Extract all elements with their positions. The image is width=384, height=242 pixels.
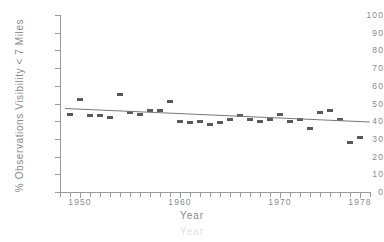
y-axis-line — [60, 15, 61, 193]
data-point — [307, 127, 313, 130]
data-point — [247, 118, 253, 121]
data-point — [257, 120, 263, 123]
data-point — [107, 116, 113, 119]
x-tick-minor — [130, 193, 131, 197]
y-tick-label: 70 — [332, 64, 384, 72]
y-tick-label: 80 — [332, 46, 384, 54]
x-tick-label: 1978 — [340, 197, 380, 207]
y-tick-label: 20 — [332, 153, 384, 161]
x-tick-minor — [220, 193, 221, 197]
x-tick-minor — [250, 193, 251, 197]
data-point — [67, 113, 73, 116]
y-tick-label: 50 — [332, 100, 384, 108]
x-tick-minor — [110, 193, 111, 197]
y-tick-label: 90 — [332, 29, 384, 37]
y-tick — [55, 33, 60, 34]
x-axis-title-ghost: Year — [0, 226, 384, 237]
data-point — [357, 136, 363, 139]
data-point — [207, 123, 213, 126]
x-tick-minor — [240, 193, 241, 197]
x-tick-minor — [200, 193, 201, 197]
y-tick — [55, 15, 60, 16]
y-tick — [55, 50, 60, 51]
x-tick-minor — [210, 193, 211, 197]
data-point — [177, 120, 183, 123]
data-point — [77, 98, 83, 101]
y-tick — [55, 86, 60, 87]
x-tick-minor — [230, 193, 231, 197]
y-tick — [55, 157, 60, 158]
y-tick-label: 100 — [332, 11, 384, 19]
data-point — [137, 113, 143, 116]
x-tick-label: 1960 — [160, 197, 200, 207]
data-point — [287, 120, 293, 123]
chart-container: 0102030405060708090100 1950196019701978 … — [0, 0, 384, 242]
y-tick — [55, 121, 60, 122]
y-tick-label: 60 — [332, 82, 384, 90]
data-point — [167, 100, 173, 103]
data-point — [347, 141, 353, 144]
y-tick — [55, 174, 60, 175]
x-axis-title: Year — [0, 210, 384, 221]
data-point — [217, 121, 223, 124]
x-tick-minor — [150, 193, 151, 197]
x-tick-minor — [120, 193, 121, 197]
x-axis-line — [60, 192, 371, 193]
x-tick-minor — [300, 193, 301, 197]
y-axis-title: % Observations Visibility < 7 Miles — [14, 1, 25, 211]
x-tick-label: 1970 — [260, 197, 300, 207]
y-tick-label: 10 — [332, 170, 384, 178]
x-tick-minor — [330, 193, 331, 197]
y-tick — [55, 68, 60, 69]
data-point — [267, 118, 273, 121]
data-point — [187, 121, 193, 124]
data-point — [197, 120, 203, 123]
x-tick-minor — [320, 193, 321, 197]
data-point — [317, 111, 323, 114]
data-point — [277, 113, 283, 116]
x-tick-minor — [310, 193, 311, 197]
data-point — [327, 109, 333, 112]
y-tick — [55, 104, 60, 105]
x-tick-minor — [100, 193, 101, 197]
data-point — [227, 118, 233, 121]
x-tick-minor — [140, 193, 141, 197]
data-point — [117, 93, 123, 96]
data-point — [97, 114, 103, 117]
y-tick — [55, 139, 60, 140]
x-tick-label: 1950 — [60, 197, 100, 207]
data-point — [87, 114, 93, 117]
